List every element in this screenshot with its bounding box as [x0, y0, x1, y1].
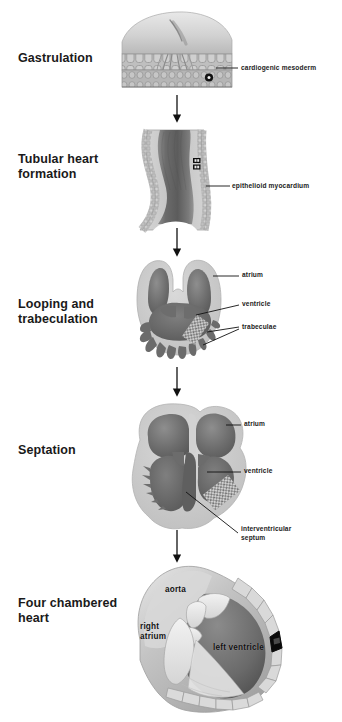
inline-label-aorta: aorta	[165, 585, 186, 595]
callout-atrium-looping: atrium	[242, 271, 263, 280]
heart-development-figure: Gastrulation Tubular heart formation Loo…	[0, 0, 342, 722]
inline-label-right-atrium: right atrium	[140, 622, 166, 641]
stage-label-septation: Septation	[18, 443, 76, 458]
callout-interventricular-septum: interventricular septum	[241, 525, 291, 542]
inline-label-left-ventricle: left ventricle	[213, 643, 264, 653]
callout-trabeculae: trabeculae	[242, 323, 277, 332]
stage-label-tubular-heart-formation: Tubular heart formation	[18, 152, 98, 182]
callout-epithelioid-myocardium: epithelioid myocardium	[232, 182, 309, 191]
callout-cardiogenic-mesoderm: cardiogenic mesoderm	[241, 64, 316, 73]
stage-label-gastrulation: Gastrulation	[18, 51, 93, 66]
stage-label-four-chambered-heart: Four chambered heart	[18, 596, 117, 626]
callout-ventricle-septation: ventricle	[244, 467, 272, 476]
callout-ventricle-looping: ventricle	[242, 300, 270, 309]
stage-label-looping-and-trabeculation: Looping and trabeculation	[18, 297, 98, 327]
illustration-gastrulation	[122, 12, 238, 87]
illustration-looping-trabeculation	[137, 260, 239, 359]
callout-atrium-septation: atrium	[244, 420, 265, 429]
illustration-tubular-heart	[140, 130, 230, 238]
illustration-septation	[132, 404, 246, 533]
